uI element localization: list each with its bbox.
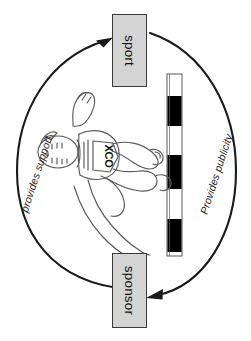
node-sponsor-label: sponsor bbox=[122, 266, 137, 315]
crossbar-icon bbox=[167, 74, 182, 256]
node-sponsor[interactable]: sponsor bbox=[112, 253, 147, 328]
jersey-text: XCO bbox=[103, 145, 115, 168]
athlete-illustration bbox=[38, 93, 171, 263]
node-sport[interactable]: sport bbox=[112, 14, 147, 87]
diagram-canvas: sport sponsor provides support Provides … bbox=[0, 0, 251, 341]
node-sport-label: sport bbox=[122, 35, 137, 66]
